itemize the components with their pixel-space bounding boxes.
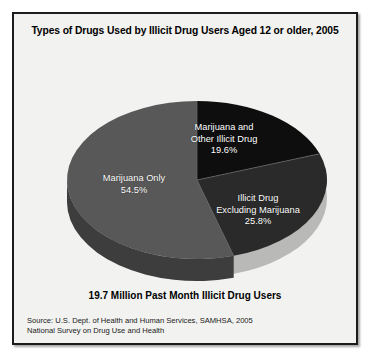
- slice-label-marijuana-only: Marijuana Only 54.5%: [76, 173, 192, 196]
- source-line-2: National Survey on Drug Use and Health: [27, 326, 253, 336]
- pie-chart-svg: [14, 48, 356, 283]
- slice-label-value: 54.5%: [121, 185, 147, 195]
- slice-label-line1: Marijuana and: [195, 122, 254, 132]
- pie-chart: Marijuana and Other Illicit Drug 19.6% I…: [14, 48, 356, 283]
- slice-label-value: 25.8%: [245, 216, 271, 226]
- slice-label-line1: Illicit Drug: [238, 193, 279, 203]
- slice-label-line1: Marijuana Only: [103, 173, 166, 183]
- slice-label-line2: Other Illicit Drug: [191, 134, 258, 144]
- source-note: Source: U.S. Dept. of Health and Human S…: [27, 316, 253, 337]
- slice-label-marijuana-other: Marijuana and Other Illicit Drug 19.6%: [164, 122, 284, 157]
- chart-caption: 19.7 Million Past Month Illicit Drug Use…: [14, 290, 356, 301]
- slice-label-illicit-excluding: Illicit Drug Excluding Marijuana 25.8%: [192, 193, 324, 228]
- slice-label-value: 19.6%: [211, 145, 237, 155]
- page-title: Types of Drugs Used by Illicit Drug User…: [14, 25, 356, 36]
- chart-figure: Types of Drugs Used by Illicit Drug User…: [12, 12, 358, 345]
- slice-label-line2: Excluding Marijuana: [216, 205, 300, 215]
- source-line-1: Source: U.S. Dept. of Health and Human S…: [27, 316, 253, 326]
